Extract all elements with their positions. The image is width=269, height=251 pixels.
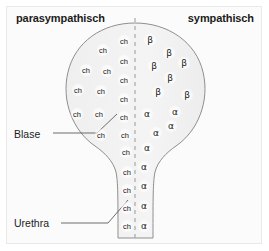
- diagram-canvas: parasympathisch sympathisch Blase Urethr…: [0, 0, 269, 251]
- bladder-diagram-svg: [0, 0, 269, 251]
- title-sympathetic: sympathisch: [188, 12, 254, 24]
- title-parasympathetic: parasympathisch: [16, 12, 105, 24]
- label-bladder: Blase: [14, 128, 40, 140]
- label-urethra: Urethra: [14, 217, 49, 229]
